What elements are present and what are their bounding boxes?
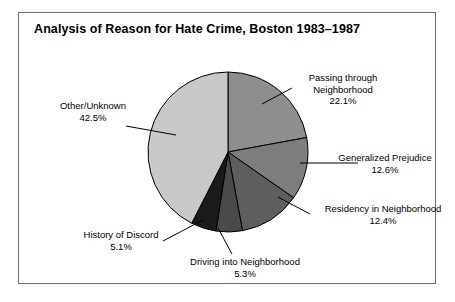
pie-value-discord: 5.1% <box>71 241 171 253</box>
pie-label-generalized-prejudice: Generalized Prejudice 12.6% <box>330 152 440 175</box>
pie-label-history-of-discord: History of Discord 5.1% <box>71 229 171 252</box>
pie-value-prejudice: 12.6% <box>330 164 440 176</box>
pie-label-driving-line1: Driving into Neighborhood <box>184 256 306 268</box>
pie-value-other: 42.5% <box>42 112 144 124</box>
pie-label-residency-line1: Residency in Neighborhood <box>322 203 444 215</box>
pie-label-other-unknown: Other/Unknown 42.5% <box>42 100 144 123</box>
pie-label-prejudice-line1: Generalized Prejudice <box>330 152 440 164</box>
pie-label-passing-line1: Passing through <box>291 72 395 84</box>
pie-slice-group <box>148 72 308 232</box>
pie-label-other-line1: Other/Unknown <box>42 100 144 112</box>
pie-label-discord-line1: History of Discord <box>71 229 171 241</box>
figure-container: Analysis of Reason for Hate Crime, Bosto… <box>0 0 455 302</box>
pie-value-residency: 12.4% <box>322 215 444 227</box>
pie-value-driving: 5.3% <box>184 268 306 280</box>
pie-label-residency-in-neighborhood: Residency in Neighborhood 12.4% <box>322 203 444 226</box>
pie-value-passing: 22.1% <box>291 95 395 107</box>
pie-label-driving-into-neighborhood: Driving into Neighborhood 5.3% <box>184 256 306 279</box>
pie-label-passing-line2: Neighborhood <box>291 84 395 96</box>
pie-label-passing-through-neighborhood: Passing through Neighborhood 22.1% <box>291 72 395 107</box>
